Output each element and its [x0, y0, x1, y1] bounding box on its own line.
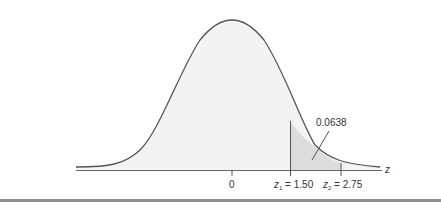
normal-curve-plot — [0, 0, 441, 211]
z1-value: = 1.50 — [282, 179, 313, 190]
axis-label-z: z — [385, 164, 390, 176]
tick-label-0: 0 — [229, 179, 235, 191]
z2-value: = 2.75 — [331, 179, 362, 190]
tick-label-z2: z2 = 2.75 — [323, 179, 362, 194]
curve-fill — [76, 20, 380, 170]
area-annotation: 0.0638 — [316, 117, 347, 129]
bottom-divider — [0, 199, 441, 202]
tick-label-z1: z1 = 1.50 — [274, 179, 313, 194]
